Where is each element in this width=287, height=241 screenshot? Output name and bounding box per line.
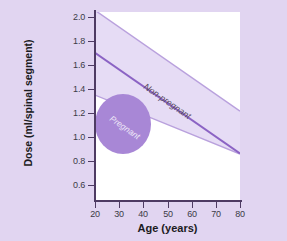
y-tick-mark — [88, 113, 95, 114]
x-tick-label: 30 — [107, 209, 131, 219]
y-tick-label: 1.4 — [55, 84, 85, 94]
x-tick-mark — [143, 202, 144, 208]
y-tick-label: 0.6 — [55, 180, 85, 190]
x-tick-mark — [119, 202, 120, 208]
x-tick-label: 20 — [83, 209, 107, 219]
figure-panel: Non-pregnant Pregnant 2.0 1.8 1.6 1.4 1.… — [0, 0, 287, 241]
x-tick-label: 60 — [180, 209, 204, 219]
y-tick-label: 0.8 — [55, 156, 85, 166]
y-tick-mark — [88, 185, 95, 186]
y-tick-label: 2.0 — [55, 12, 85, 22]
x-tick-label: 50 — [156, 209, 180, 219]
x-axis-title: Age (years) — [95, 222, 240, 234]
y-tick-mark — [88, 65, 95, 66]
y-tick-mark — [88, 17, 95, 18]
y-axis-title: Dose (ml/spinal segment) — [22, 13, 34, 193]
y-tick-mark — [88, 41, 95, 42]
x-tick-label: 70 — [204, 209, 228, 219]
x-tick-label: 40 — [131, 209, 155, 219]
y-tick-label: 1.2 — [55, 108, 85, 118]
x-tick-label: 80 — [228, 209, 252, 219]
y-tick-label: 1.6 — [55, 60, 85, 70]
y-tick-mark — [88, 161, 95, 162]
y-axis-line — [94, 10, 96, 202]
x-tick-mark — [216, 202, 217, 208]
chart-canvas: Non-pregnant Pregnant — [95, 12, 240, 200]
y-tick-label: 1.0 — [55, 132, 85, 142]
x-tick-mark — [95, 202, 96, 208]
x-tick-mark — [240, 202, 241, 208]
x-tick-mark — [168, 202, 169, 208]
x-tick-mark — [192, 202, 193, 208]
y-tick-label: 1.8 — [55, 36, 85, 46]
y-tick-mark — [88, 89, 95, 90]
y-tick-mark — [88, 137, 95, 138]
